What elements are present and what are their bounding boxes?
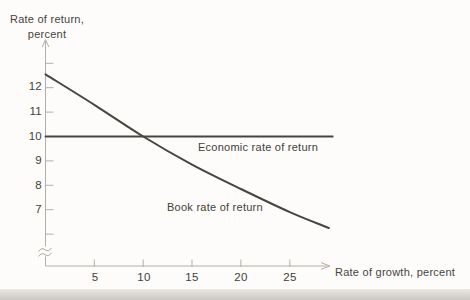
figure: Rate of return, percent Rate of growth, … xyxy=(0,0,470,300)
x-tick-label-10: 10 xyxy=(131,271,157,284)
y-tick-label-8: 8 xyxy=(16,179,42,192)
y-axis-title-line1: Rate of return, xyxy=(4,12,90,27)
y-tick-label-11: 11 xyxy=(16,105,42,118)
x-tick-label-20: 20 xyxy=(228,271,254,284)
y-tick-label-9: 9 xyxy=(16,154,42,167)
x-axis-title: Rate of growth, percent xyxy=(335,266,455,278)
book-rate-label: Book rate of return xyxy=(167,201,263,213)
y-axis-ticks xyxy=(46,63,54,234)
economic-rate-label: Economic rate of return xyxy=(198,141,318,153)
y-tick-label-7: 7 xyxy=(16,203,42,216)
y-tick-label-12: 12 xyxy=(16,80,42,93)
y-axis-title: Rate of return, percent xyxy=(4,12,90,41)
y-axis-title-line2: percent xyxy=(4,27,90,42)
y-tick-label-10: 10 xyxy=(16,130,42,143)
page-edge xyxy=(0,289,470,300)
x-tick-label-5: 5 xyxy=(82,271,108,284)
x-tick-label-15: 15 xyxy=(179,271,205,284)
x-tick-label-25: 25 xyxy=(277,271,303,284)
